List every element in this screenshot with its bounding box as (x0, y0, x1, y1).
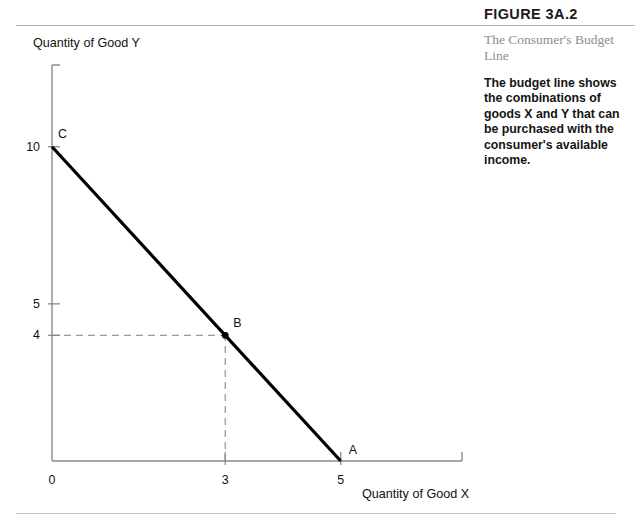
plot-area (0, 0, 470, 512)
budget-line-chart: Quantity of Good Y Quantity of Good X 45… (0, 0, 470, 512)
data-point-B[interactable] (222, 332, 229, 339)
figure-page: FIGURE 3A.2 The Consumer's Budget Line T… (0, 0, 635, 532)
y-tick-label-5: 5 (18, 297, 40, 311)
x-tick-label-3: 3 (215, 473, 235, 487)
x-axis-title: Quantity of Good X (362, 487, 469, 501)
point-label-A: A (349, 443, 357, 457)
budget-line (52, 147, 341, 461)
figure-subtitle: The Consumer's Budget Line (484, 32, 624, 63)
figure-caption: The budget line shows the combinations o… (484, 76, 626, 168)
point-label-B: B (233, 316, 241, 330)
y-tick-label-4: 4 (18, 328, 40, 342)
x-tick-label-0: 0 (42, 473, 62, 487)
y-tick-label-10: 10 (18, 140, 40, 154)
x-tick-label-5: 5 (331, 473, 351, 487)
point-label-C: C (58, 127, 67, 141)
figure-number: FIGURE 3A.2 (484, 6, 578, 22)
y-axis-title: Quantity of Good Y (33, 36, 140, 50)
